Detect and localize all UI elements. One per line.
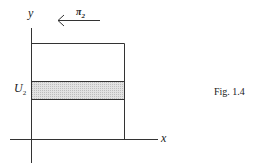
figure-caption: Fig. 1.4 — [214, 86, 245, 97]
x-axis-label: x — [161, 131, 166, 146]
band-label-sub: 2 — [23, 89, 27, 97]
arrow-label: π2 — [76, 6, 85, 20]
figure-canvas — [0, 0, 264, 168]
band-label-symbol: U — [14, 81, 23, 95]
shaded-band-u2 — [32, 81, 124, 99]
arrow-label-sub: 2 — [81, 12, 85, 20]
y-axis-label: y — [28, 6, 33, 21]
band-label: U2 — [14, 81, 26, 97]
